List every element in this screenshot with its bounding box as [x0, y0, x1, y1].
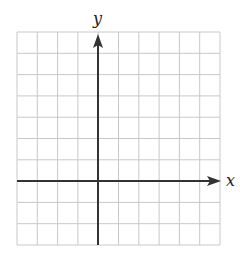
y-axis-label: y — [92, 9, 103, 28]
coordinate-plane: y x — [0, 0, 240, 254]
grid-lines — [17, 32, 220, 245]
x-axis-label: x — [226, 171, 235, 190]
